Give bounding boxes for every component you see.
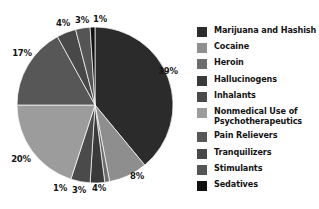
legend-color-swatch (197, 149, 207, 159)
legend-item[interactable]: Heroin (197, 58, 319, 69)
slice-percentage-label: 1% (53, 183, 67, 193)
slice-percentage-label: 1% (93, 14, 107, 24)
legend-color-swatch (197, 43, 207, 53)
legend-color-swatch (197, 132, 207, 142)
slice-percentage-label: 20% (11, 154, 31, 164)
legend-color-swatch (197, 165, 207, 175)
legend-item-label: Sedatives (214, 180, 258, 190)
pie-chart: 39%8%4%3%1%20%17%4%3%1% (0, 0, 190, 209)
legend-color-swatch (197, 92, 207, 102)
legend-item-label: Hallucinogens (214, 75, 277, 85)
legend-color-swatch (197, 108, 207, 118)
legend-item-label: Nonmedical Use of Psychotherapeutics (214, 107, 302, 126)
chart-root: 39%8%4%3%1%20%17%4%3%1% Marijuana and Ha… (0, 0, 319, 209)
legend-item-label: Heroin (214, 58, 244, 68)
slice-percentage-label: 3% (75, 15, 89, 25)
legend-item[interactable]: Sedatives (197, 180, 319, 191)
slice-percentage-label: 8% (130, 171, 144, 181)
legend-color-swatch (197, 27, 207, 37)
slice-percentage-label: 4% (56, 18, 70, 28)
legend-color-swatch (197, 76, 207, 86)
slice-percentage-label: 39% (158, 66, 178, 76)
legend-item-label: Tranquilizers (214, 148, 271, 158)
legend-color-swatch (197, 59, 207, 69)
legend-item-label: Marijuana and Hashish (214, 26, 316, 36)
legend-item[interactable]: Hallucinogens (197, 75, 319, 86)
legend-color-swatch (197, 181, 207, 191)
slice-percentage-label: 17% (12, 48, 32, 58)
legend-item-label: Stimulants (214, 164, 262, 174)
chart-legend: Marijuana and HashishCocaineHeroinHalluc… (197, 26, 319, 196)
legend-item[interactable]: Cocaine (197, 42, 319, 53)
legend-item-label: Inhalants (214, 91, 256, 101)
legend-item[interactable]: Pain Relievers (197, 131, 319, 142)
legend-item[interactable]: Tranquilizers (197, 148, 319, 159)
legend-item-label: Cocaine (214, 42, 249, 52)
slice-percentage-label: 4% (92, 183, 106, 193)
legend-item[interactable]: Marijuana and Hashish (197, 26, 319, 37)
legend-item[interactable]: Nonmedical Use of Psychotherapeutics (197, 107, 319, 126)
slice-percentage-label: 3% (72, 185, 86, 195)
legend-item[interactable]: Stimulants (197, 164, 319, 175)
pie-svg (0, 0, 190, 209)
legend-item[interactable]: Inhalants (197, 91, 319, 102)
legend-item-label: Pain Relievers (214, 131, 277, 141)
